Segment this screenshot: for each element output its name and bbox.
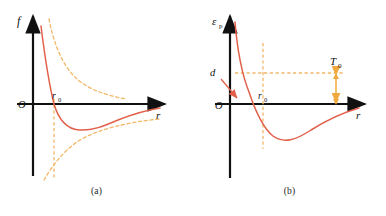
panel-b-T0-arrowhead-up xyxy=(333,73,339,79)
panel-a-caption: (a) xyxy=(0,186,193,196)
panel-b-T0-label: T 0 xyxy=(330,55,342,70)
panel-a-y-axis-label: f xyxy=(17,14,22,28)
panel-b-x-axis-label: r xyxy=(356,109,361,121)
panel-b-y-axis-label-sub: p xyxy=(219,22,223,30)
panel-b-r0-label-base: r xyxy=(258,91,262,101)
panel-a-plot: f r O r 0 xyxy=(0,0,193,186)
panel-a-r0-label: r 0 xyxy=(52,91,61,103)
panel-a-repulsive-dashed-curve xyxy=(49,19,126,99)
panel-b-r0-label-sub: 0 xyxy=(264,96,267,103)
panel-b-y-axis-label-base: ε xyxy=(212,15,217,27)
panel-b-plot: ε p r O r 0 d T 0 xyxy=(193,0,386,186)
panel-a-net-force-curve xyxy=(41,26,160,130)
panel-a-attractive-dashed-curve xyxy=(44,119,160,180)
panel-a-r0-label-base: r xyxy=(52,91,56,101)
panel-b-d-label: d xyxy=(210,67,216,78)
panel-b-T0-label-sub: 0 xyxy=(338,62,342,70)
panel-a-r0-label-sub: 0 xyxy=(58,96,61,103)
panel-a-origin-label: O xyxy=(18,99,26,110)
panel-b-origin-label: O xyxy=(215,100,223,111)
panel-b-T0-label-base: T xyxy=(330,55,337,67)
panel-a: f r O r 0 (a) xyxy=(0,0,193,216)
panel-b-y-axis-label: ε p xyxy=(212,15,223,30)
panel-b: ε p r O r 0 d T 0 (b) xyxy=(193,0,386,216)
figure-root: f r O r 0 (a) xyxy=(0,0,386,216)
panel-b-potential-energy-curve xyxy=(235,22,359,140)
panel-b-T0-measure-arrow xyxy=(333,73,339,105)
panel-a-x-axis-label: r xyxy=(156,109,161,121)
panel-b-caption: (b) xyxy=(193,186,386,196)
